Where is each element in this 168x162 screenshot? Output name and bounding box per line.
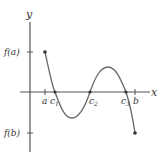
c3-label: c3 <box>121 96 130 107</box>
y-axis-label: y <box>25 8 33 21</box>
x-axis-label: x <box>151 86 158 99</box>
b-label: b <box>133 96 139 106</box>
root-c1 <box>53 90 56 93</box>
point-b-fb <box>133 131 137 135</box>
fa-label: f(a) <box>3 47 20 57</box>
a-label: a <box>42 96 47 106</box>
root-c3 <box>124 90 127 93</box>
ivt-graph: y x f(a) f(b) a c1 c2 c3 b <box>0 0 168 162</box>
c2-label: c2 <box>89 96 98 107</box>
point-a-fa <box>43 50 47 54</box>
fb-label: f(b) <box>3 128 21 138</box>
root-c2 <box>88 90 91 93</box>
